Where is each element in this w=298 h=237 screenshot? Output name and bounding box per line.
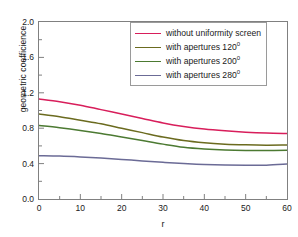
legend-item: with apertures 2800	[135, 68, 261, 82]
chart-figure: geometric coefficience 0.00.40.81.21.62.…	[0, 0, 298, 237]
x-axis-tick-labels: 0102030405060	[38, 203, 290, 217]
x-tick-label: 30	[150, 203, 176, 213]
x-tick-label: 10	[67, 203, 93, 213]
legend-item-label: with apertures 1200	[166, 42, 240, 52]
y-tick-label: 2.0	[2, 17, 34, 27]
x-tick-label: 60	[274, 203, 298, 213]
y-tick-label: 1.6	[2, 52, 34, 62]
legend-line-swatch	[135, 33, 161, 34]
legend-item: with apertures 2000	[135, 54, 261, 68]
degree-superscript: 0	[237, 41, 240, 47]
legend-item-label: with apertures 2000	[166, 56, 240, 66]
legend-item-label: with apertures 2800	[166, 70, 240, 80]
degree-superscript: 0	[237, 69, 240, 75]
y-tick-label: 0.4	[2, 159, 34, 169]
series-line-4	[39, 156, 287, 166]
x-tick-label: 0	[26, 203, 52, 213]
x-axis-label: r	[38, 219, 288, 229]
legend-line-swatch	[135, 75, 161, 76]
degree-superscript: 0	[237, 55, 240, 61]
legend-line-swatch	[135, 47, 161, 48]
x-tick-label: 50	[233, 203, 259, 213]
legend-item: with apertures 1200	[135, 40, 261, 54]
y-tick-label: 1.2	[2, 88, 34, 98]
x-tick-label: 20	[109, 203, 135, 213]
legend: without uniformity screenwith apertures …	[130, 22, 267, 86]
legend-line-swatch	[135, 61, 161, 62]
y-axis-tick-labels: 0.00.40.81.21.62.0	[0, 21, 34, 200]
y-tick-label: 0.8	[2, 123, 34, 133]
x-tick-label: 40	[191, 203, 217, 213]
legend-item: without uniformity screen	[135, 26, 261, 40]
series-line-3	[39, 126, 287, 151]
series-line-1	[39, 99, 287, 134]
legend-item-label: without uniformity screen	[166, 28, 261, 38]
